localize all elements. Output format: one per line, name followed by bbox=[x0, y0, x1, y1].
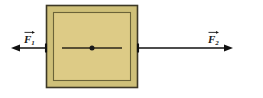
center-of-mass-dot bbox=[90, 46, 95, 51]
force-label-f2: F2 bbox=[208, 34, 219, 45]
force-label-f2-subscript: 2 bbox=[215, 39, 219, 47]
force-f2-arrowhead bbox=[224, 45, 233, 52]
force-f1-arrowhead bbox=[11, 45, 20, 52]
force-label-f1: F1 bbox=[24, 34, 35, 45]
force-label-f1-subscript: 1 bbox=[31, 39, 35, 47]
force-diagram-figure: F1 F2 Banco de imagens/ Arquivo da edito… bbox=[0, 0, 263, 98]
diagram-canvas bbox=[0, 0, 263, 98]
